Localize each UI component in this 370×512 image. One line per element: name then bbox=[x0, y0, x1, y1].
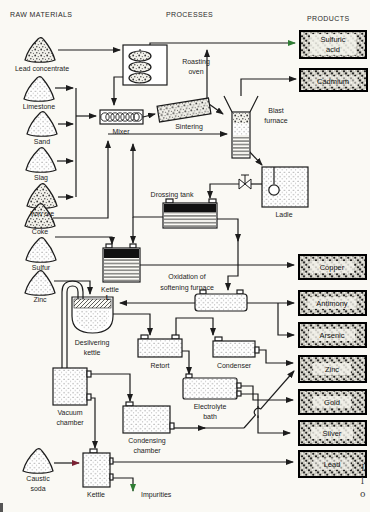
flow-roasting-to-mixer bbox=[114, 77, 123, 105]
vacuum-outlet-2 bbox=[87, 394, 91, 400]
caustic-soda-label-1: Caustic bbox=[26, 475, 50, 482]
limestone-pile bbox=[24, 77, 54, 102]
ladle-label: Ladle bbox=[275, 211, 292, 218]
coke-label: Coke bbox=[32, 228, 48, 235]
product-label: Silver bbox=[323, 429, 342, 438]
caption-fragment: o bbox=[360, 489, 365, 499]
drossing-tank-melt bbox=[164, 212, 216, 227]
condenser-outlet bbox=[255, 347, 259, 353]
product-label: Cadmium bbox=[317, 77, 349, 86]
slag-label: Slag bbox=[34, 174, 48, 182]
flow-valve-to-drossing bbox=[210, 184, 239, 198]
lead-smelting-flow-diagram: RAW MATERIALS PROCESSES PRODUCTS bbox=[0, 0, 370, 512]
header-processes: PROCESSES bbox=[166, 11, 213, 18]
drossing-tank-dross-layer bbox=[164, 204, 216, 212]
drossing-tank: Drossing tank bbox=[151, 191, 217, 228]
kettle2-label: Kettle bbox=[87, 491, 105, 498]
drossing-tank-stub-left bbox=[166, 199, 173, 203]
flow-condenser-to-zinc bbox=[255, 350, 293, 363]
kettle-stub-left bbox=[106, 244, 112, 248]
kettle2-body bbox=[83, 453, 110, 487]
impurities-label: Impurities bbox=[141, 491, 172, 499]
mixer-body bbox=[100, 110, 143, 124]
sand-pile bbox=[27, 112, 57, 137]
retort-body bbox=[138, 339, 182, 357]
blast-furnace-charge bbox=[233, 113, 249, 123]
kettle-label: Kettle bbox=[101, 286, 119, 293]
valve bbox=[239, 175, 251, 189]
product-antimony: Antimony bbox=[299, 291, 366, 315]
roasting-oven-hearth-2 bbox=[129, 62, 151, 72]
product-copper: Copper bbox=[299, 255, 366, 279]
condensing-outlet bbox=[170, 423, 174, 429]
ladle-hook-ring bbox=[269, 185, 279, 195]
product-label: Gold bbox=[324, 398, 340, 407]
caption-fragment: I bbox=[361, 463, 365, 473]
retort-label: Retort bbox=[150, 362, 169, 369]
desilvering-label-2: kettle bbox=[84, 349, 101, 356]
sand-label: Sand bbox=[34, 138, 50, 145]
bath-label-2: bath bbox=[203, 413, 217, 420]
kettle-melt bbox=[104, 258, 139, 281]
flow-dross-recycle-up bbox=[133, 144, 163, 217]
bath-outlet-2 bbox=[237, 391, 241, 396]
kettle-2: Kettle Impurities bbox=[83, 449, 172, 499]
retort: Retort bbox=[138, 335, 182, 369]
flow-coke-up bbox=[53, 141, 108, 218]
flow-kettle2-to-impurities bbox=[113, 478, 133, 491]
flow-bath-to-gold bbox=[241, 386, 293, 400]
sulfur-pile bbox=[26, 238, 56, 263]
flow-zinc-to-desilvering bbox=[54, 281, 90, 294]
sulfur-label: Sulfur bbox=[32, 264, 51, 271]
product-cadmium: Cadmium bbox=[300, 69, 367, 91]
flowchart-page: RAW MATERIALS PROCESSES PRODUCTS bbox=[0, 0, 370, 512]
kettle-dross-layer bbox=[104, 249, 139, 258]
kettle2-stub-top bbox=[90, 449, 97, 453]
roasting-oven-label-2: oven bbox=[188, 68, 203, 75]
blast-furnace-label-2: furnace bbox=[264, 117, 287, 124]
product-label: Antimony bbox=[316, 299, 348, 308]
softening-furnace: Oxidation of softening furnace bbox=[160, 273, 247, 311]
condensing-chamber: Condensing chamber bbox=[123, 402, 174, 454]
blast-furnace-melt bbox=[233, 135, 249, 157]
ladle: Ladle bbox=[262, 167, 308, 218]
sintering-machine: Sintering bbox=[157, 98, 211, 131]
flow-to-softening-furnace bbox=[228, 238, 238, 290]
flow-vacuum-to-condensing bbox=[91, 374, 130, 401]
condensing-stub bbox=[126, 402, 133, 406]
product-lead: Lead bbox=[299, 451, 366, 477]
vacuum-outlet-1 bbox=[87, 371, 91, 377]
bath-outlet-1 bbox=[237, 383, 241, 388]
blast-furnace-label-1: Blast bbox=[268, 107, 284, 114]
oxidation-label-1: Oxidation of bbox=[168, 273, 205, 280]
roasting-oven: Roasting oven bbox=[123, 45, 210, 85]
desilvering-label-1: Desilvering bbox=[75, 339, 110, 347]
condensing-body bbox=[123, 406, 170, 433]
drossing-tank-label: Drossing tank bbox=[151, 191, 194, 199]
slag-pile bbox=[26, 148, 56, 173]
blast-furnace-mid bbox=[233, 123, 249, 135]
mixer: Mixer bbox=[100, 110, 143, 135]
flow-drossing-down bbox=[217, 219, 238, 241]
bath-label-1: Electrolyte bbox=[194, 403, 227, 411]
l-marker-label: L bbox=[106, 294, 111, 301]
product-sulfuric-acid: Sulfuric acid bbox=[300, 31, 366, 58]
condensing-label-1: Condensing bbox=[128, 437, 165, 445]
flow-softening-to-arsenic bbox=[278, 303, 294, 335]
flow-furnace-to-cadmium bbox=[241, 79, 296, 96]
flow-vacuum-to-kettle2 bbox=[91, 398, 95, 448]
zinc-pile bbox=[25, 271, 55, 296]
roasting-oven-hearth-3 bbox=[129, 73, 151, 83]
condenser-label: Condenser bbox=[217, 362, 252, 369]
product-zinc: Zinc bbox=[299, 356, 366, 382]
product-label: Lead bbox=[324, 460, 341, 469]
condensing-label-2: chamber bbox=[133, 447, 161, 454]
product-label: Zinc bbox=[325, 365, 339, 374]
valve-right bbox=[245, 179, 251, 189]
flow-sulfur-to-kettle bbox=[55, 237, 112, 244]
product-arsenic: Arsenic bbox=[299, 323, 366, 347]
retort-stub-right bbox=[172, 335, 179, 339]
page-edge-mark bbox=[0, 503, 3, 512]
kettle2-outlet-1 bbox=[110, 458, 113, 464]
zinc-label: Zinc bbox=[33, 296, 47, 303]
